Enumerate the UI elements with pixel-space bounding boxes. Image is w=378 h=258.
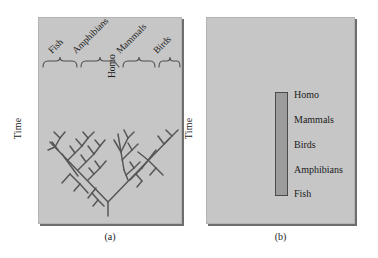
panel-a-time-axis-label: Time bbox=[12, 109, 23, 149]
panel-a-group-braces bbox=[38, 55, 182, 71]
panel-b-time-axis-label: Time bbox=[183, 109, 194, 149]
bar-label-birds: Birds bbox=[294, 139, 316, 150]
panel-b-caption: (b) bbox=[206, 231, 355, 242]
panel-a-phylogenetic-tree bbox=[38, 88, 182, 218]
panel-b-progress-bar bbox=[275, 92, 288, 196]
bar-label-amphibians: Amphibians bbox=[294, 164, 343, 175]
figure-two-panel-evolution-diagram: Time Fish Amphibians Mammals Birds Homo bbox=[0, 0, 378, 258]
bar-label-mammals: Mammals bbox=[294, 114, 334, 125]
bar-label-homo: Homo bbox=[294, 89, 319, 100]
bar-label-fish: Fish bbox=[294, 188, 311, 199]
panel-a-caption: (a) bbox=[38, 231, 182, 242]
